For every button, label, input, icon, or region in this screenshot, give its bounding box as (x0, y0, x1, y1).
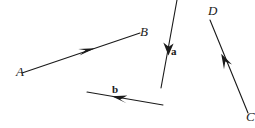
vector-cd-arrowhead (221, 54, 232, 70)
vector-a-shaft (161, 0, 177, 88)
label-vector-a: a (171, 46, 177, 57)
vector-cd-shaft (210, 20, 248, 113)
vector-canvas (0, 0, 255, 128)
vector-diagram-figure: A B a b D C (0, 0, 255, 128)
vector-ab-group (22, 33, 140, 73)
vector-a-group (161, 0, 177, 88)
label-point-d: D (208, 4, 217, 17)
label-vector-b: b (112, 84, 118, 95)
label-point-a: A (16, 65, 24, 78)
label-point-b: B (140, 25, 148, 38)
vector-b-group (87, 92, 163, 105)
vector-ab-arrowhead (78, 48, 95, 55)
vector-b-shaft (87, 92, 163, 105)
vector-b-arrowhead (112, 96, 128, 104)
vector-ab-shaft (22, 33, 140, 73)
vector-cd-group (210, 20, 248, 113)
label-point-c: C (246, 110, 255, 123)
